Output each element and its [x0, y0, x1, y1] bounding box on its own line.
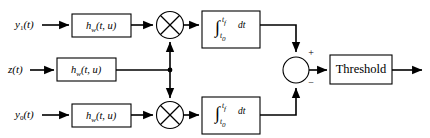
input-y1-group: y1(t) — [14, 18, 69, 32]
integrator-bottom-box — [202, 97, 260, 134]
integrator-bottom-differential: dt — [238, 106, 246, 116]
input-y0-group: y0(t) — [14, 108, 69, 122]
block-diagram-svg: y1(t) hw(t, u) ∫ tf t0 dt — [0, 0, 430, 138]
summing-junction-circle — [283, 57, 309, 83]
filter-bottom-group: hw(t, u) — [72, 104, 153, 127]
block-diagram-canvas: y1(t) hw(t, u) ∫ tf t0 dt — [0, 0, 430, 138]
threshold-block-group: Threshold — [330, 55, 422, 84]
summing-plus-sign: + — [308, 47, 314, 58]
integrator-bottom-group: ∫ tf t0 dt — [202, 88, 296, 134]
input-z-group: z(t) — [7, 63, 54, 76]
integrator-top-box — [202, 11, 260, 48]
input-label-z: z(t) — [7, 63, 23, 76]
summing-minus-sign: − — [308, 77, 314, 88]
multiplier-top-group — [157, 12, 200, 39]
wire-integrator-bottom-to-sum — [260, 88, 296, 115]
multiplier-bottom-group — [157, 102, 200, 129]
summing-junction-group: + − — [283, 47, 327, 88]
wire-integrator-top-to-sum — [260, 25, 296, 52]
integrator-top-differential: dt — [238, 20, 246, 30]
filter-middle-group: hw(t, u) — [57, 42, 172, 98]
input-label-y1: y1(t) — [14, 18, 34, 32]
integrator-top-group: ∫ tf t0 dt — [202, 11, 296, 52]
threshold-label: Threshold — [336, 62, 387, 76]
input-label-y0: y0(t) — [14, 108, 34, 122]
filter-top-group: hw(t, u) — [72, 14, 153, 37]
